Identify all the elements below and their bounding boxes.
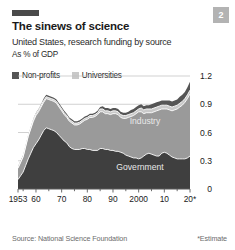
x-tick-label: 80 [83,194,93,204]
inline-label-industry: Industry [130,116,161,126]
chart-subtitle: United States, research funding by sourc… [12,37,171,47]
source-note: Source: National Science Foundation [12,234,127,243]
chart-title: The sinews of science [12,20,129,32]
chart-card: 2 The sinews of science United States, r… [0,0,235,250]
x-tick-label: 90 [108,194,118,204]
x-tick-label: 1953 [9,194,28,204]
y-tick-label: 1.2 [200,71,212,81]
estimate-note: *Estimate [197,234,227,243]
x-tick-label: 60 [31,194,41,204]
plot-area: 19536070809020001020*00.30.60.91.2Indust… [0,62,235,212]
page-number-badge: 2 [213,7,229,23]
inline-label-government: Government [116,162,164,172]
x-tick-label: 20* [184,194,197,204]
x-tick-label: 2000 [129,194,148,204]
top-rule-decoration [12,10,39,16]
y-tick-label: 0 [207,184,212,194]
stacked-area-chart: 19536070809020001020*00.30.60.91.2Indust… [0,62,235,212]
chart-units-label: As % of GDP [12,50,58,59]
x-tick-label: 70 [57,194,67,204]
y-tick-label: 0.9 [200,99,212,109]
x-tick-label: 10 [160,194,170,204]
y-tick-label: 0.3 [200,156,212,166]
y-tick-label: 0.6 [200,128,212,138]
